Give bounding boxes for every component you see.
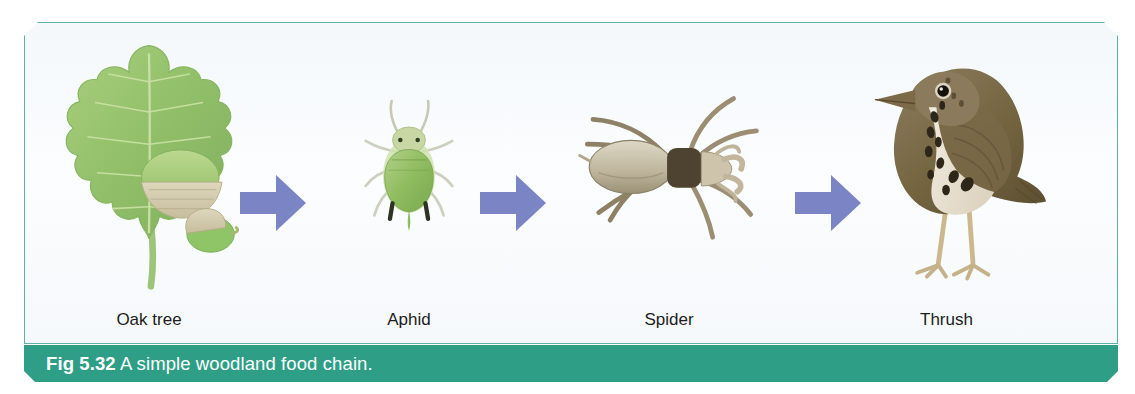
figure-caption-bar: Fig 5.32 A simple woodland food chain. [24, 345, 1118, 382]
figure-number: Fig 5.32 [46, 353, 116, 374]
arrow-aphid-to-spider [480, 175, 546, 231]
organism-thrush: Thrush [824, 22, 1069, 344]
organism-oak-tree: Oak tree [44, 22, 254, 344]
organism-spider: Spider [559, 22, 779, 344]
thrush-bird-icon [846, 22, 1048, 310]
organism-label: Thrush [920, 310, 973, 344]
organism-label: Aphid [387, 310, 430, 344]
organism-aphid: Aphid [324, 22, 494, 344]
oak-leaf-acorn-icon [59, 22, 239, 310]
organism-label: Spider [644, 310, 693, 344]
spider-icon [574, 22, 764, 310]
food-chain-row: Oak tree [24, 22, 1118, 344]
figure-caption-description: A simple woodland food chain. [116, 353, 373, 374]
food-chain-figure: Oak tree [0, 0, 1135, 394]
arrow-oak-to-aphid [240, 175, 306, 231]
aphid-icon [357, 22, 461, 310]
organism-label: Oak tree [116, 310, 181, 344]
figure-caption: Fig 5.32 A simple woodland food chain. [24, 353, 373, 375]
